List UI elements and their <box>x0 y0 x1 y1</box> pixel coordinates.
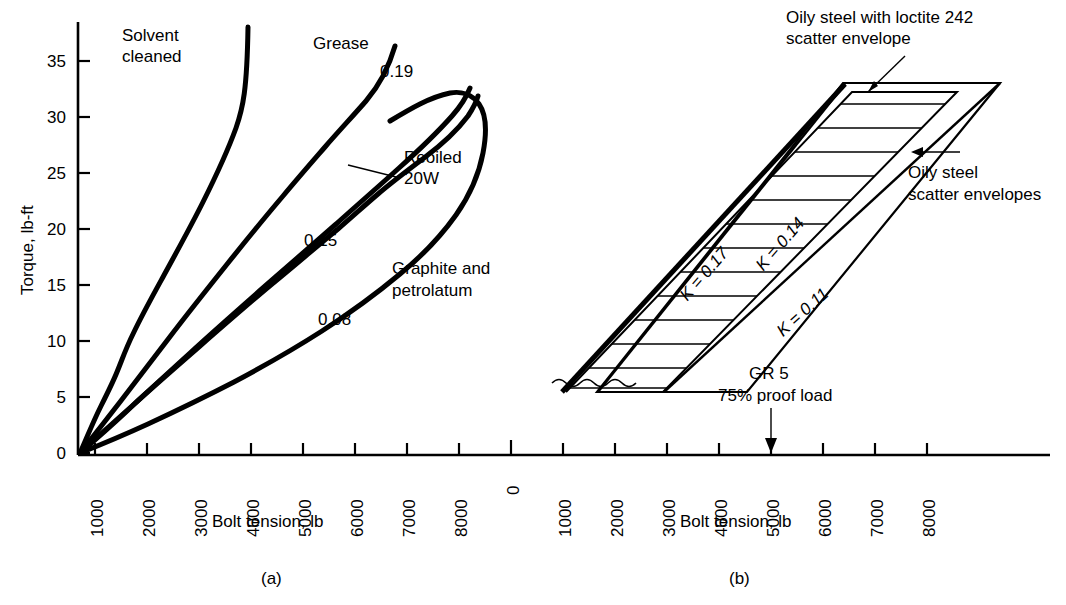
label-k-019: 0.19 <box>380 62 413 82</box>
panel-b-x-axis-title: Bolt tension, lb <box>680 512 792 532</box>
label-k-015: 0.15 <box>304 231 337 251</box>
panel-a-x-ticks <box>95 443 459 455</box>
k-line-017 <box>562 84 845 392</box>
label-reoiled-20w-line1: Reoiled <box>404 148 462 168</box>
panel-a-xtick-3000: 3000 <box>192 499 212 537</box>
panel-a-xtick-7000: 7000 <box>400 499 420 537</box>
wavy-break-line <box>552 380 636 387</box>
panel-b-xtick-3000: 3000 <box>660 499 680 537</box>
k-line-014 <box>598 84 845 392</box>
panel-a-xtick-8000: 8000 <box>452 499 472 537</box>
panel-b-xtick-0: 0 <box>504 486 524 495</box>
panel-b-caption: (b) <box>729 569 750 589</box>
panel-b-xtick-6000: 6000 <box>816 499 836 537</box>
annotation-loctite-line2: scatter envelope <box>786 29 911 49</box>
panel-a-y-ticks <box>78 61 90 453</box>
panel-a-ytick-0: 0 <box>32 444 66 464</box>
curve-grease <box>80 46 395 453</box>
label-solvent-cleaned-line1: Solvent <box>122 26 179 46</box>
panel-a-caption: (a) <box>261 569 282 589</box>
panel-b-xtick-8000: 8000 <box>920 499 940 537</box>
annotation-oily-steel-line2: scatter envelopes <box>908 185 1041 205</box>
label-graphite-line2: petrolatum <box>392 281 472 301</box>
panel-a-ytick-5: 5 <box>32 388 66 408</box>
panel-b-xtick-2000: 2000 <box>608 499 628 537</box>
panel-a-ytick-25: 25 <box>32 164 66 184</box>
envelope-loctite-242 <box>566 92 957 392</box>
annotation-oily-steel-line1: Oily steel <box>908 163 978 183</box>
panel-b-xtick-1000: 1000 <box>556 499 576 537</box>
panel-a-xtick-1000: 1000 <box>88 499 108 537</box>
annotation-gr5-line2: 75% proof load <box>718 386 832 406</box>
panel-b-xtick-7000: 7000 <box>868 499 888 537</box>
panel-a-ytick-35: 35 <box>32 52 66 72</box>
panel-b-envelopes <box>540 83 1000 392</box>
label-graphite-line1: Graphite and <box>392 259 490 279</box>
panel-a-ytick-30: 30 <box>32 108 66 128</box>
figure-container: 0 5 10 15 20 25 30 35 Torque, lb-ft 1000… <box>0 0 1066 605</box>
label-k-008: 0.08 <box>318 310 351 330</box>
panel-a-curves <box>80 27 485 453</box>
panel-a-xtick-6000: 6000 <box>348 499 368 537</box>
label-grease: Grease <box>313 34 369 54</box>
panel-a-ytick-10: 10 <box>32 332 66 352</box>
panel-a-x-axis-title: Bolt tension, lb <box>212 512 324 532</box>
panel-b-x-ticks <box>511 440 927 455</box>
panel-a-y-axis-title: Torque, lb-ft <box>18 205 38 295</box>
panel-a-xtick-2000: 2000 <box>140 499 160 537</box>
annotation-gr5-line1: GR 5 <box>749 364 789 384</box>
label-reoiled-20w-line2: 20W <box>404 169 439 189</box>
panel-b-axes <box>511 440 927 455</box>
label-solvent-cleaned-line2: cleaned <box>122 47 182 67</box>
annotation-loctite-line1: Oily steel with loctite 242 <box>786 8 973 28</box>
